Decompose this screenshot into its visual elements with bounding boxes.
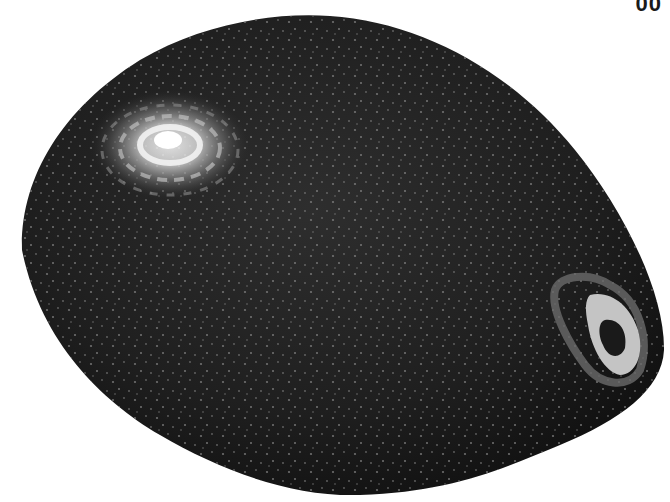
fruit-illustration: [0, 0, 670, 502]
specular-highlight: [90, 90, 250, 200]
corner-label: 00: [636, 0, 662, 17]
fruit-body: [0, 0, 670, 502]
